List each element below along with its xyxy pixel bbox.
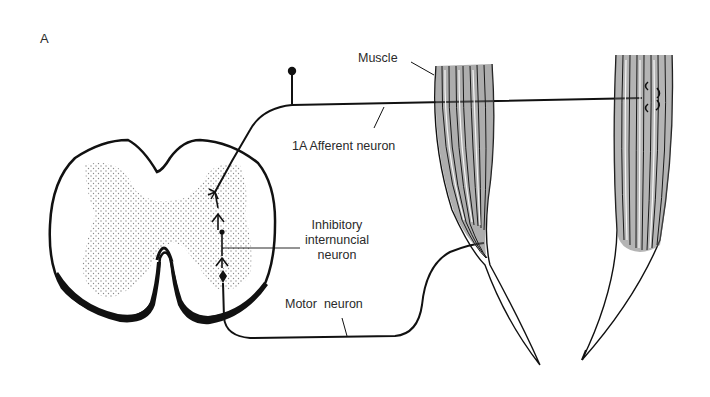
panel-label: A <box>40 31 49 46</box>
reflex-arc-diagram <box>0 0 710 397</box>
afferent-neuron <box>208 67 642 208</box>
muscle-right <box>582 55 673 360</box>
spinal-cord <box>50 140 275 324</box>
inhibitory-label-line3: neuron <box>305 248 369 263</box>
afferent-neuron-label: 1A Afferent neuron <box>292 139 395 154</box>
inhibitory-label-line1: Inhibitory <box>305 218 369 233</box>
inhibitory-interneuron-label: Inhibitory internuncial neuron <box>305 218 369 263</box>
motor-neuron-label: Motor neuron <box>285 297 363 312</box>
gray-matter <box>82 163 252 298</box>
inhibitory-label-line2: internuncial <box>305 233 369 248</box>
muscle-label: Muscle <box>358 51 398 66</box>
muscle-left <box>411 62 540 365</box>
